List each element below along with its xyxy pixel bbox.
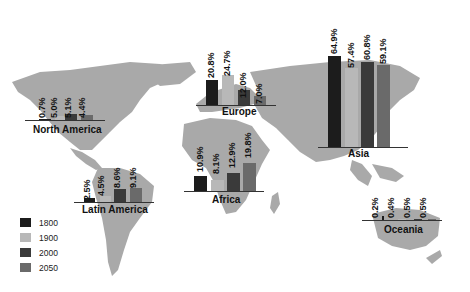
value-label: 4.5% [96, 175, 106, 196]
value-label: 64.9% [329, 28, 339, 54]
bar-2050 [377, 65, 390, 147]
value-label: 0.7% [37, 97, 47, 118]
bar-2050 [130, 188, 142, 202]
value-label: 5.1% [63, 97, 73, 118]
region-europe: 20.8% 24.7% 12.0% 7.0% Europe [196, 54, 276, 106]
bar-2050 [428, 219, 436, 220]
value-label: 20.8% [206, 52, 216, 78]
value-label: 10.9% [195, 146, 205, 172]
legend-item-1800: 1800 [20, 215, 58, 230]
value-label: 57.4% [346, 42, 356, 68]
region-label: Asia [348, 148, 369, 159]
legend-item-1900: 1900 [20, 230, 58, 245]
legend-item-2000: 2000 [20, 245, 58, 260]
legend-label: 2050 [39, 263, 58, 273]
region-north-america: 0.7% 5.0% 5.1% 4.4% North America [25, 72, 105, 122]
bar-2050 [243, 163, 256, 191]
region-label: Latin America [82, 204, 148, 215]
region-label: Africa [212, 194, 240, 205]
legend-label: 1800 [39, 218, 58, 228]
region-asia: 64.9% 57.4% 60.8% 59.1% Asia [318, 10, 408, 150]
baseline [362, 220, 442, 221]
bar-1900 [398, 219, 406, 220]
baseline [25, 120, 105, 121]
region-label: Europe [222, 106, 256, 117]
value-label: 19.8% [243, 132, 253, 158]
legend: 1800 1900 2000 2050 [20, 215, 58, 275]
legend-label: 2000 [39, 248, 58, 258]
value-label: 8.1% [211, 153, 221, 174]
value-label: 9.1% [128, 167, 138, 188]
value-label: 8.6% [112, 167, 122, 188]
value-label: 59.1% [378, 38, 388, 64]
value-label: 7.0% [254, 83, 264, 104]
legend-swatch [20, 218, 31, 227]
region-africa: 10.9% 8.1% 12.9% 19.8% Africa [184, 134, 264, 194]
value-label: 5.0% [49, 97, 59, 118]
bar-1800 [206, 80, 218, 105]
region-oceania: 0.2% 0.4% 0.5% 0.5% Oceania [362, 196, 452, 236]
baseline [184, 191, 264, 192]
bar-2000 [414, 219, 422, 220]
legend-swatch [20, 248, 31, 257]
value-label: 0.2% [370, 197, 380, 218]
region-latin-america: 2.5% 4.5% 8.6% 9.1% Latin America [74, 168, 154, 208]
baseline [74, 202, 154, 203]
value-label: 0.4% [386, 197, 396, 218]
bar-1800 [382, 216, 384, 220]
bar-2000 [361, 62, 374, 147]
bar-1900 [222, 75, 234, 105]
region-label: Oceania [384, 224, 423, 235]
value-label: 0.5% [402, 197, 412, 218]
value-label: 0.5% [418, 197, 428, 218]
value-label: 12.0% [238, 72, 248, 98]
value-label: 24.7% [222, 50, 232, 76]
value-label: 60.8% [362, 34, 372, 60]
bar-2000 [227, 173, 240, 191]
bar-1800 [194, 176, 207, 191]
value-label: 12.9% [227, 142, 237, 168]
bar-1800 [328, 56, 341, 147]
legend-item-2050: 2050 [20, 260, 58, 275]
legend-swatch [20, 233, 31, 242]
bar-1900 [345, 68, 358, 147]
value-label: 2.5% [82, 179, 92, 200]
bar-1900 [211, 180, 224, 191]
legend-swatch [20, 263, 31, 272]
region-label: North America [33, 124, 102, 135]
bar-1800 [39, 119, 51, 120]
legend-label: 1900 [39, 233, 58, 243]
value-label: 4.4% [77, 97, 87, 118]
bar-2000 [114, 189, 126, 202]
bar-1900 [100, 196, 111, 202]
